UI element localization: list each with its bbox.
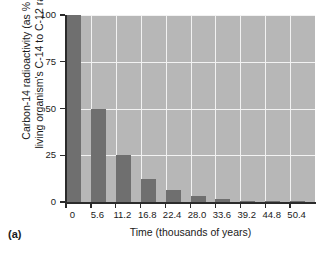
x-tick-label: 28.0 <box>188 210 207 220</box>
x-tick-label: 33.6 <box>213 210 232 220</box>
x-tick-mark <box>190 203 191 208</box>
y-tick-mark <box>60 61 65 62</box>
bar <box>141 179 156 202</box>
y-tick-label: 0 <box>51 197 56 207</box>
y-tick-label: 50 <box>45 104 56 114</box>
y-axis-line <box>65 15 67 203</box>
x-tick-mark <box>115 203 116 208</box>
bar <box>91 109 106 203</box>
x-tick-mark <box>240 203 241 208</box>
bar <box>66 15 81 202</box>
y-axis-title: Carbon-14 radioactivity (as % of living … <box>20 0 46 160</box>
bar <box>166 190 181 202</box>
x-tick-mark <box>140 203 141 208</box>
plot-area <box>66 15 315 202</box>
y-tick-label: 25 <box>45 150 56 160</box>
bar-series <box>66 15 315 202</box>
y-tick-mark <box>60 108 65 109</box>
y-tick-mark <box>60 14 65 15</box>
y-tick-mark <box>60 155 65 156</box>
x-tick-label: 16.8 <box>138 210 157 220</box>
x-tick-label: 44.8 <box>262 210 281 220</box>
x-tick-mark <box>165 203 166 208</box>
x-tick-mark <box>265 203 266 208</box>
x-tick-label: 39.2 <box>238 210 257 220</box>
bar <box>116 155 131 202</box>
x-axis-title: Time (thousands of years) <box>66 226 315 238</box>
y-tick-label: 75 <box>45 57 56 67</box>
x-tick-label: 11.2 <box>113 210 131 220</box>
x-tick-label: 22.4 <box>163 210 182 220</box>
x-tick-label: 5.6 <box>91 210 104 220</box>
panel-label: (a) <box>8 228 21 240</box>
x-tick-mark <box>215 203 216 208</box>
x-tick-mark <box>289 203 290 208</box>
figure-panel-a: 0255075100 05.611.216.822.428.033.639.24… <box>0 0 328 256</box>
x-tick-label: 50.4 <box>287 210 306 220</box>
x-tick-mark <box>65 203 66 208</box>
y-axis-title-line-2: living organism's C-14 to C-12 ratio) <box>33 0 46 160</box>
x-tick-label: 0 <box>70 210 75 220</box>
x-tick-mark <box>90 203 91 208</box>
y-axis-title-line-1: Carbon-14 radioactivity (as % of <box>20 0 33 160</box>
y-tick-mark <box>60 201 65 202</box>
